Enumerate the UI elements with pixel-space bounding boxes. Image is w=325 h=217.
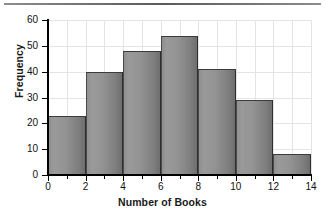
x-axis-tick-label: 2 xyxy=(74,182,98,192)
y-axis-line xyxy=(47,19,49,176)
histogram-bar xyxy=(123,51,161,175)
y-axis-tick xyxy=(42,20,47,21)
histogram-bar xyxy=(86,72,124,175)
x-axis-minor-tick xyxy=(104,176,105,179)
histogram-bar xyxy=(161,36,199,176)
plot-area xyxy=(48,20,311,175)
gridline-horizontal xyxy=(48,20,311,21)
x-axis-minor-tick xyxy=(217,176,218,179)
x-axis-minor-tick xyxy=(180,176,181,179)
y-axis-tick xyxy=(42,98,47,99)
histogram-bar xyxy=(273,154,311,175)
histogram-bar xyxy=(236,100,274,175)
x-axis-minor-tick xyxy=(292,176,293,179)
y-axis-tick xyxy=(42,175,47,176)
y-axis-tick-label: 10 xyxy=(14,144,38,154)
x-axis-tick-label: 14 xyxy=(299,182,323,192)
x-axis-tick-label: 12 xyxy=(261,182,285,192)
y-axis-tick-label: 0 xyxy=(14,170,38,180)
y-axis-tick-label: 50 xyxy=(14,41,38,51)
x-axis-minor-tick xyxy=(142,176,143,179)
gridline-vertical xyxy=(311,20,312,175)
histogram-bar xyxy=(198,69,236,175)
y-axis-tick-label: 30 xyxy=(14,93,38,103)
x-axis-title: Number of Books xyxy=(0,196,325,208)
x-axis-minor-tick xyxy=(255,176,256,179)
y-axis-tick xyxy=(42,46,47,47)
y-axis-tick xyxy=(42,149,47,150)
top-divider-rule xyxy=(4,3,321,5)
x-axis-tick-label: 4 xyxy=(111,182,135,192)
x-axis-tick-label: 10 xyxy=(224,182,248,192)
x-axis-tick-label: 0 xyxy=(36,182,60,192)
y-axis-tick xyxy=(42,72,47,73)
y-axis-tick-label: 40 xyxy=(14,67,38,77)
x-axis-tick-label: 8 xyxy=(186,182,210,192)
y-axis-tick-label: 20 xyxy=(14,118,38,128)
y-axis-tick xyxy=(42,123,47,124)
x-axis-minor-tick xyxy=(67,176,68,179)
y-axis-tick-label: 60 xyxy=(14,15,38,25)
histogram-figure: Frequency Number of Books 01020304050600… xyxy=(0,0,325,217)
x-axis-tick-label: 6 xyxy=(149,182,173,192)
histogram-bar xyxy=(48,116,86,175)
